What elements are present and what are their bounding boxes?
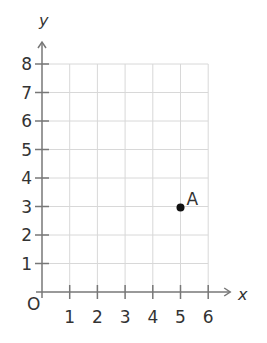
x-tick-label: 3 [120,307,131,327]
x-tick-label: 1 [64,307,75,327]
y-tick-label: 8 [21,54,32,74]
x-tick-label: 6 [203,307,214,327]
x-tick-label: 2 [92,307,103,327]
y-tick-label: 7 [21,83,32,103]
origin-label: O [27,294,40,314]
y-tick-label: 3 [21,197,32,217]
x-axis-label: x [237,285,248,304]
point-label: A [187,189,199,209]
y-axis-label: y [38,11,49,30]
data-points: A [177,189,199,212]
y-tick-label: 4 [21,168,32,188]
tick-labels: 12345612345678 [21,54,213,327]
x-tick-label: 5 [175,307,186,327]
point-marker [177,204,185,212]
grid-lines [42,64,208,292]
y-tick-label: 1 [21,254,32,274]
y-tick-label: 5 [21,140,32,160]
y-tick-label: 6 [21,111,32,131]
y-tick-label: 2 [21,225,32,245]
x-tick-label: 4 [147,307,158,327]
axes [35,42,230,299]
coordinate-plane: 12345612345678 A y x O [0,0,267,343]
